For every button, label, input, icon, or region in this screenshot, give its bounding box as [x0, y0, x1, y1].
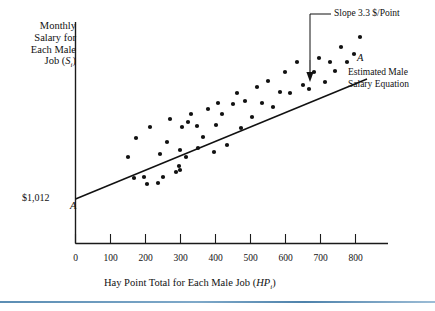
x-tick-label-100: 100	[103, 253, 117, 263]
x-tick-label-400: 400	[208, 253, 222, 263]
line-label-right: A	[357, 52, 363, 64]
x-tick-label-600: 600	[278, 253, 292, 263]
scatter-plot-figure: Monthly Salary for Each Male Job (Si) Ha…	[0, 0, 435, 311]
x-tick-label-200: 200	[138, 253, 152, 263]
x-axis-label: Hay Point Total for Each Male Job (HPi)	[104, 277, 276, 291]
x-tick-label-700: 700	[313, 253, 327, 263]
y-axis-label-symbol: (Si)	[62, 55, 76, 66]
intercept-label: $1,012	[22, 192, 50, 203]
x-axis-ticks	[76, 234, 356, 244]
x-tick-label-0: 0	[73, 253, 78, 263]
x-axis-label-symbol: (HPi)	[253, 277, 276, 288]
estimated-salary-line	[76, 79, 368, 199]
slope-annotation: Slope 3.3 $/Point	[334, 8, 400, 19]
equation-annotation: Estimated Male Salary Equation	[348, 67, 432, 91]
x-tick-label-500: 500	[243, 253, 257, 263]
y-axis-label: Monthly Salary for Each Male Job (Si)	[18, 20, 76, 69]
line-label-left: A	[70, 200, 76, 212]
x-axis-label-text: Hay Point Total for Each Male Job	[104, 277, 250, 288]
page-divider-rule	[0, 301, 435, 303]
slope-leader	[306, 14, 331, 82]
x-tick-label-800: 800	[348, 253, 362, 263]
x-tick-label-300: 300	[173, 253, 187, 263]
